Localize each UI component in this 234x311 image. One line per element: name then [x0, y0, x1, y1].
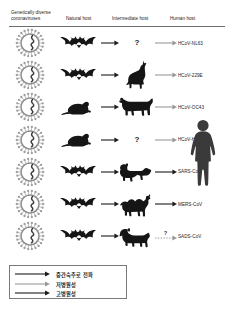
bat-icon	[56, 188, 102, 220]
cow-icon	[118, 91, 156, 123]
column-header-intermediate-host: Intermediate host	[112, 16, 160, 22]
legend-arrow-icon	[15, 290, 51, 296]
virus-name-text: HCoV-OC43	[178, 105, 204, 110]
virus-name-label: MERS-CoV	[178, 188, 234, 220]
transmission-arrow-to-intermediate-host	[100, 59, 120, 91]
camel-icon	[118, 188, 156, 220]
transmission-arrow-to-intermediate-host	[100, 124, 120, 156]
civet-icon	[118, 156, 156, 188]
transmission-arrow-to-intermediate-host	[100, 91, 120, 123]
coronavirus-particle-icon	[10, 220, 50, 252]
virus-row: ?HCoV-NL63	[0, 27, 234, 59]
question-mark-icon: ?	[135, 136, 140, 144]
transmission-arrow-to-intermediate-host	[100, 156, 120, 188]
virus-name-text: HCoV-NL63	[178, 41, 203, 46]
column-header-human-host: Human host	[170, 16, 210, 22]
coronavirus-particle-icon	[10, 156, 50, 188]
virus-row: ?SADS-CoV	[0, 220, 234, 252]
pig-icon	[118, 220, 156, 252]
coronavirus-particle-icon	[10, 27, 50, 59]
legend-arrow-icon	[15, 281, 51, 287]
transmission-arrow-to-human-host: ?	[154, 220, 178, 252]
transmission-arrow-to-human-host	[154, 124, 178, 156]
virus-name-text: MERS-CoV	[178, 202, 202, 207]
question-mark-icon: ?	[118, 27, 156, 59]
column-header-genetically-diverse-coronaviruses: Genetically diverse coronaviruses	[11, 10, 63, 21]
question-mark-icon: ?	[118, 124, 156, 156]
transmission-arrow-to-human-host	[154, 27, 178, 59]
column-headers: Genetically diverse coronaviruses Natura…	[0, 0, 234, 28]
bat-icon	[56, 27, 102, 59]
virus-name-label: HCoV-229E	[178, 59, 234, 91]
virus-name-label: SADS-CoV	[178, 220, 234, 252]
legend-item-transmission-to-intermediate-host: 중간숙주로 전파	[15, 269, 93, 279]
virus-name-label: HCoV-NL63	[178, 27, 234, 59]
coronavirus-particle-icon	[10, 91, 50, 123]
bat-icon	[56, 59, 102, 91]
legend-label-high-pathogenicity: 고병원성	[56, 290, 76, 297]
transmission-arrow-to-human-host	[154, 188, 178, 220]
transmission-arrow-to-intermediate-host	[100, 220, 120, 252]
legend-label-low-pathogenicity: 저병원성	[56, 281, 76, 288]
transmission-arrow-to-human-host	[154, 156, 178, 188]
legend-label-transmission-to-intermediate-host: 중간숙주로 전파	[56, 271, 93, 278]
legend-arrow-icon	[15, 271, 51, 277]
coronavirus-particle-icon	[10, 188, 50, 220]
virus-row: MERS-CoV	[0, 188, 234, 220]
bat-icon	[56, 220, 102, 252]
virus-row: HCoV-229E	[0, 59, 234, 91]
virus-name-text: HCoV-229E	[178, 73, 203, 78]
transmission-arrow-to-human-host	[154, 91, 178, 123]
bat-icon	[56, 156, 102, 188]
alpaca-icon	[118, 59, 156, 91]
mouse-icon	[56, 124, 102, 156]
mouse-icon	[56, 91, 102, 123]
human-silhouette-icon	[186, 118, 220, 192]
legend-item-high-pathogenicity: 고병원성	[15, 288, 76, 298]
coronavirus-particle-icon	[10, 124, 50, 156]
transmission-arrow-to-intermediate-host	[100, 27, 120, 59]
transmission-arrow-to-human-host	[154, 59, 178, 91]
question-mark-icon: ?	[135, 39, 140, 47]
legend: 중간숙주로 전파 저병원성 고병원성	[9, 265, 127, 299]
coronavirus-particle-icon	[10, 59, 50, 91]
svg-text:?: ?	[164, 230, 167, 236]
virus-name-text: SADS-CoV	[178, 234, 201, 239]
column-header-natural-host: Natural host	[66, 16, 106, 22]
transmission-arrow-to-intermediate-host	[100, 188, 120, 220]
